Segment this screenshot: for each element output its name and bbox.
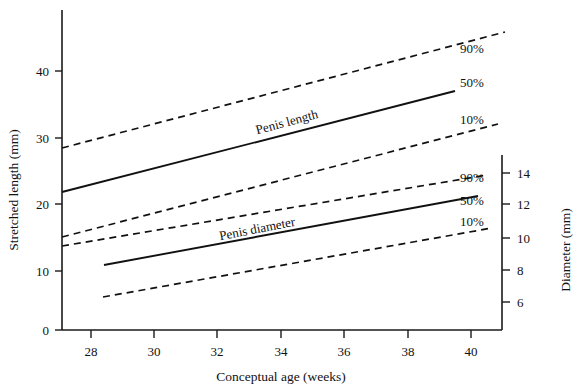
left-tick-label-20: 20 [36,197,49,212]
bottom-axis-ticks [91,330,471,338]
right-tick-label-12: 12 [517,197,530,212]
left-tick-label-0: 0 [43,323,50,338]
left-tick-label-40: 40 [36,64,49,79]
bottom-tick-label-36: 36 [338,344,352,359]
percentile-label-diameter-p50: 50% [460,193,484,208]
bottom-tick-label-30: 30 [148,344,161,359]
right-axis-ticks [502,173,510,302]
curve-length-p90 [62,32,505,148]
bottom-tick-label-28: 28 [85,344,98,359]
x-axis-title: Conceptual age (weeks) [216,369,346,384]
bottom-tick-label-34: 34 [275,344,289,359]
curve-diameter-p50 [104,196,478,265]
right-tick-label-8: 8 [517,263,524,278]
y2-axis-title: Diameter (mm) [558,208,573,292]
penis-length-label: Penis length [254,106,320,137]
chart-canvas: 40 30 20 10 0 14 12 10 8 6 28 30 32 [0,0,585,390]
right-tick-label-14: 14 [517,166,531,181]
percentile-label-diameter-p90: 90% [460,170,484,185]
percentile-label-length-p90: 90% [460,41,484,56]
right-tick-label-10: 10 [517,231,530,246]
percentile-label-length-p50: 50% [460,75,484,90]
left-tick-label-10: 10 [36,264,49,279]
right-tick-label-6: 6 [517,295,524,310]
penis-growth-chart: 40 30 20 10 0 14 12 10 8 6 28 30 32 [0,0,585,390]
percentile-label-diameter-p10: 10% [460,214,484,229]
left-axis-ticks [55,71,62,330]
left-tick-label-30: 30 [36,131,49,146]
curve-diameter-p10 [103,228,492,297]
bottom-tick-label-40: 40 [465,344,478,359]
curve-diameter-p90 [62,175,487,246]
y-axis-title: Stretched length (mm) [6,129,21,250]
bottom-tick-label-32: 32 [211,344,224,359]
percentile-label-length-p10: 10% [460,112,484,127]
curve-length-p50 [62,91,455,192]
bottom-tick-label-38: 38 [402,344,415,359]
